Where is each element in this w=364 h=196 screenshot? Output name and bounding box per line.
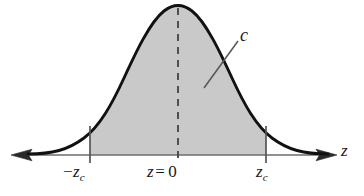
- right-critical-variable: z: [256, 162, 263, 181]
- center-value: 0: [167, 162, 179, 181]
- axis-name-label: z: [341, 142, 348, 159]
- normal-curve-figure: −zc z=0 zc c z: [0, 0, 364, 196]
- right-critical-label: zc: [256, 163, 268, 183]
- shaded-area-label: c: [240, 26, 248, 44]
- left-critical-minus-sign: −: [63, 162, 73, 181]
- right-critical-subscript: c: [263, 171, 268, 183]
- left-critical-subscript: c: [80, 171, 85, 183]
- left-critical-variable: z: [73, 162, 80, 181]
- center-axis-label: z=0: [147, 163, 178, 180]
- figure-canvas: [0, 0, 364, 196]
- center-variable: z: [147, 162, 154, 181]
- left-critical-label: −zc: [63, 163, 85, 183]
- center-equals-sign: =: [154, 162, 167, 181]
